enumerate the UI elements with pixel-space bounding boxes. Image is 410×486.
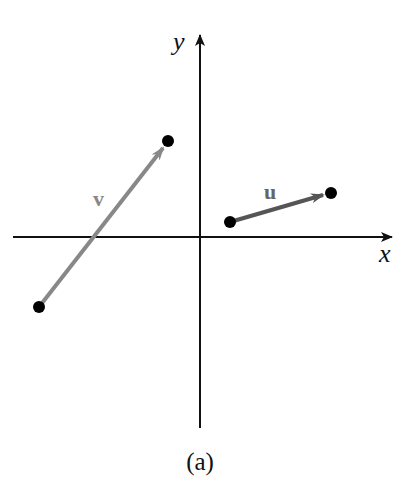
y-axis-label: y — [170, 27, 185, 56]
vector-u-tail-point — [224, 216, 236, 228]
vector-u-head-point — [325, 187, 337, 199]
x-axis-label: x — [378, 239, 391, 268]
vector-u-label: u — [264, 179, 276, 204]
vector-v-head-point — [162, 135, 174, 147]
vector-v-arrow — [39, 148, 163, 307]
figure-caption: (a) — [186, 448, 214, 476]
vector-v-label: v — [93, 186, 104, 211]
vector-u: u — [224, 179, 337, 228]
vector-diagram: x y v u (a) — [0, 0, 410, 486]
vector-u-arrow — [230, 195, 323, 222]
vector-v: v — [33, 135, 174, 313]
vector-v-tail-point — [33, 301, 45, 313]
